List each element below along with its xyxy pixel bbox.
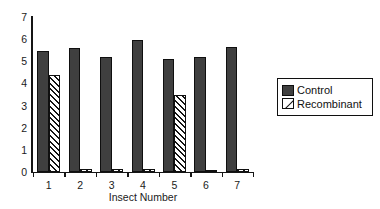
bar-recombinant xyxy=(206,170,218,172)
y-axis-tick-label: 7 xyxy=(14,12,27,23)
bar-recombinant xyxy=(174,95,186,173)
legend-item-recombinant: Recombinant xyxy=(282,97,367,110)
x-axis-title: Insect Number xyxy=(33,192,253,203)
bar-control xyxy=(100,57,112,172)
y-axis-tick-label: 1 xyxy=(14,145,27,156)
bar-control xyxy=(163,59,175,172)
bar-recombinant xyxy=(112,169,124,172)
bar-chart-figure: 01234567 1234567 Insect Number Control R… xyxy=(0,0,380,209)
x-axis-tick-label: 5 xyxy=(166,180,182,191)
x-axis-tick xyxy=(222,172,223,177)
y-axis-tick-label: 4 xyxy=(14,78,27,89)
x-axis-tick xyxy=(159,172,160,177)
bar-control xyxy=(132,40,144,172)
legend-label-recombinant: Recombinant xyxy=(297,98,362,110)
bar-control xyxy=(226,47,238,172)
bar-control xyxy=(194,57,206,172)
bar-control xyxy=(69,48,81,172)
bar-recombinant xyxy=(80,169,92,172)
bar-recombinant xyxy=(237,169,249,172)
x-axis-tick xyxy=(190,172,191,177)
legend-item-control: Control xyxy=(282,84,367,97)
x-axis-tick xyxy=(253,172,254,177)
x-axis-tick xyxy=(64,172,65,177)
y-axis-tick-label: 0 xyxy=(14,167,27,178)
x-axis-tick-label: 3 xyxy=(104,180,120,191)
x-axis-tick-label: 6 xyxy=(198,180,214,191)
legend-swatch-recombinant-icon xyxy=(282,98,294,109)
x-axis-tick-label: 7 xyxy=(229,180,245,191)
plot-area xyxy=(33,17,253,172)
legend-label-control: Control xyxy=(297,84,332,96)
chart-legend: Control Recombinant xyxy=(277,78,373,116)
y-axis-tick-label: 5 xyxy=(14,56,27,67)
bar-recombinant xyxy=(143,169,155,172)
x-axis-tick-label: 2 xyxy=(72,180,88,191)
x-axis-tick-label: 4 xyxy=(135,180,151,191)
y-axis-tick-label: 3 xyxy=(14,101,27,112)
bar-control xyxy=(37,51,49,172)
x-axis-tick xyxy=(96,172,97,177)
y-axis-tick-label: 6 xyxy=(14,34,27,45)
bar-recombinant xyxy=(49,75,61,172)
legend-swatch-control-icon xyxy=(282,85,294,96)
x-axis-tick-label: 1 xyxy=(41,180,57,191)
x-axis-tick xyxy=(127,172,128,177)
x-axis-tick xyxy=(33,172,34,177)
y-axis-tick-label: 2 xyxy=(14,123,27,134)
